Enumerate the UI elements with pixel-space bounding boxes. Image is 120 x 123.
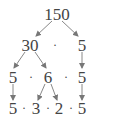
leaf-5: 5 [9, 100, 18, 117]
leaf-2: 2 [55, 100, 64, 117]
multiply-dot: · [64, 71, 68, 83]
node-5: 5 [78, 69, 87, 86]
node-150: 150 [44, 6, 70, 23]
factor-tree-diagram: 150 30 · 5 5 · 6 · 5 5 · 3 · 2 · 5 [0, 0, 120, 123]
multiply-dot: · [29, 71, 33, 83]
multiply-dot: · [69, 102, 73, 114]
multiply-dot: · [46, 102, 50, 114]
multiply-dot: · [22, 102, 26, 114]
node-30: 30 [22, 37, 39, 54]
node-5: 5 [78, 37, 87, 54]
node-5: 5 [9, 69, 18, 86]
leaf-5: 5 [78, 100, 87, 117]
node-6: 6 [44, 69, 53, 86]
multiply-dot: · [53, 39, 57, 51]
leaf-3: 3 [32, 100, 41, 117]
